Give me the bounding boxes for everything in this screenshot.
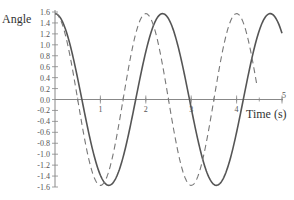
y-tick-label: -1.4 xyxy=(37,172,50,181)
y-tick-label: 0.0 xyxy=(40,96,50,105)
y-axis: 1.61.41.21.00.80.60.40.20.0-0.2-0.4-0.6-… xyxy=(37,8,58,192)
y-tick-label: -1.0 xyxy=(37,150,50,159)
x-tick-label: 4 xyxy=(235,105,239,114)
x-tick-label: 2 xyxy=(144,105,148,114)
y-axis-title: Angle xyxy=(2,12,31,26)
y-tick-label: 1.6 xyxy=(40,8,50,17)
angle-time-chart: 1.61.41.21.00.80.60.40.20.0-0.2-0.4-0.6-… xyxy=(0,0,294,200)
y-tick-label: -1.2 xyxy=(37,161,50,170)
y-tick-label: -0.6 xyxy=(37,128,50,137)
y-tick-label: 1.0 xyxy=(40,41,50,50)
y-tick-label: -0.2 xyxy=(37,106,50,115)
x-tick-label: 5 xyxy=(282,91,286,100)
y-tick-label: -0.8 xyxy=(37,139,50,148)
y-tick-label: -1.6 xyxy=(37,183,50,192)
x-tick-label: 1 xyxy=(98,105,102,114)
y-tick-label: 0.4 xyxy=(40,74,50,83)
y-tick-label: 1.4 xyxy=(40,19,50,28)
y-tick-label: 0.2 xyxy=(40,85,50,94)
x-axis-title: Time (s) xyxy=(246,107,287,121)
y-tick-label: 0.6 xyxy=(40,63,50,72)
y-tick-label: -0.4 xyxy=(37,117,50,126)
y-tick-label: 1.2 xyxy=(40,30,50,39)
y-tick-label: 0.8 xyxy=(40,52,50,61)
